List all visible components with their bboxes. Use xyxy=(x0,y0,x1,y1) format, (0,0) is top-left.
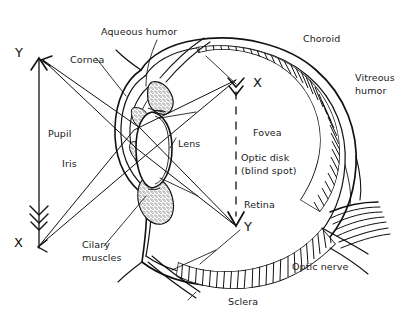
label-cilary-muscles-line2: muscles xyxy=(82,252,122,264)
label-aqueous-humor: Aqueous humor xyxy=(101,26,177,38)
label-cornea: Cornea xyxy=(70,54,104,66)
label-vitreous-humor-line2: humor xyxy=(355,85,387,97)
label-cilary-muscles-line1: Cilary xyxy=(82,239,110,251)
label-lens: Lens xyxy=(178,138,200,150)
label-pupil: Pupil xyxy=(48,128,71,140)
lens-body xyxy=(136,112,172,188)
label-iris: Iris xyxy=(62,158,77,170)
marker-image-top-x: X xyxy=(253,76,262,89)
marker-object-bottom-x: X xyxy=(14,236,23,249)
label-sclera: Sclera xyxy=(228,296,258,308)
label-vitreous-humor-line1: Vitreous xyxy=(355,72,395,84)
marker-object-top-y: Y xyxy=(15,46,23,59)
label-optic-disk-line2: (blind spot) xyxy=(241,165,297,177)
label-fovea: Fovea xyxy=(253,127,282,139)
retina-band-lower xyxy=(174,216,336,293)
object-arrow xyxy=(30,58,48,248)
marker-image-bottom-y: Y xyxy=(244,220,252,233)
label-retina: Retina xyxy=(244,199,275,211)
label-choroid: Choroid xyxy=(303,33,340,45)
label-optic-disk-line1: Optic disk xyxy=(241,152,289,164)
eye-diagram-figure: Aqueous humor Cornea Choroid Vitreous hu… xyxy=(0,0,413,322)
label-optic-nerve: Optic nerve xyxy=(292,261,348,273)
